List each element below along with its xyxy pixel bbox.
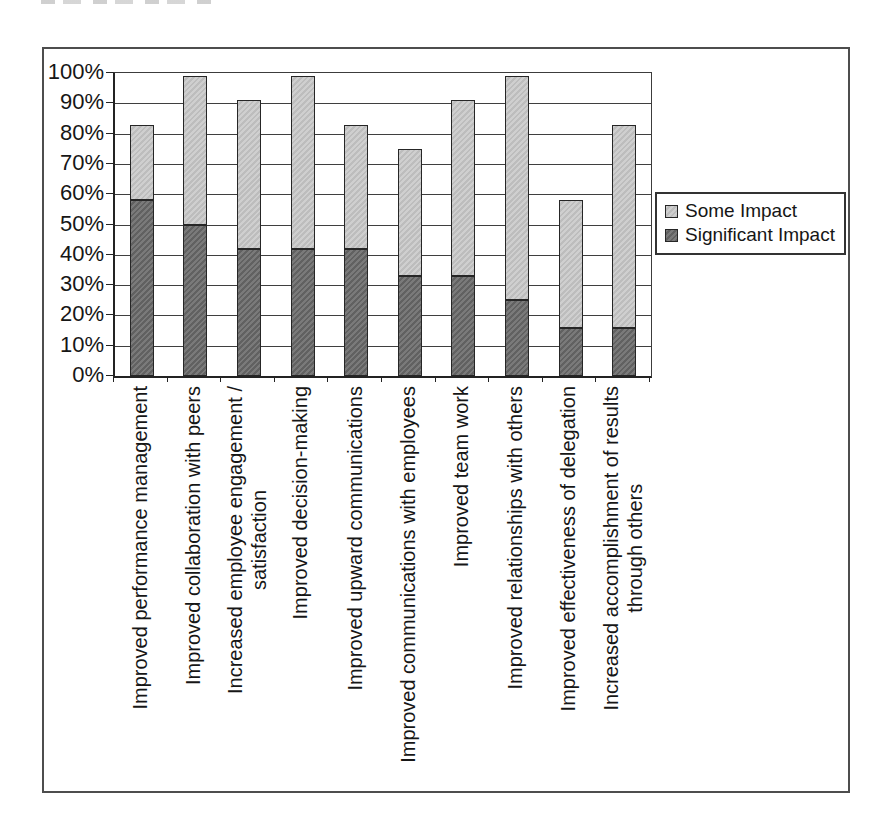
y-tick-mark: [106, 375, 113, 376]
bar-segment-significant-impact: [451, 276, 475, 376]
x-category-label: Increased accomplishment of resultsthrou…: [598, 386, 646, 711]
bar-segment-significant-impact: [398, 276, 422, 376]
y-tick-label: 60%: [32, 182, 104, 204]
x-tick-mark: [649, 377, 650, 382]
y-tick-label: 90%: [32, 91, 104, 113]
legend-label: Significant Impact: [685, 224, 835, 246]
x-category-label: Improved decision-making: [289, 386, 313, 619]
x-tick-mark: [381, 377, 382, 382]
bar-segment-some-impact: [559, 200, 583, 327]
x-tick-mark: [595, 377, 596, 382]
x-tick-mark: [327, 377, 328, 382]
bar-segment-significant-impact: [237, 249, 261, 376]
significant-impact-swatch-icon: [665, 229, 678, 242]
y-tick-mark: [106, 345, 113, 346]
bar-segment-some-impact: [130, 125, 154, 201]
y-tick-label: 70%: [32, 152, 104, 174]
bar-segment-significant-impact: [291, 249, 315, 376]
legend-item-significant-impact: Significant Impact: [665, 223, 837, 247]
x-category-label: Improved effectiveness of delegation: [557, 386, 581, 711]
legend-item-some-impact: Some Impact: [665, 199, 837, 223]
bar-segment-significant-impact: [344, 249, 368, 376]
y-tick-mark: [106, 193, 113, 194]
y-tick-mark: [106, 72, 113, 73]
x-tick-mark: [167, 377, 168, 382]
bar-segment-some-impact: [237, 100, 261, 249]
x-tick-mark: [113, 377, 114, 382]
x-category-label: Improved performance management: [128, 386, 152, 710]
x-category-label: Improved communications with employees: [396, 386, 420, 763]
bar-segment-some-impact: [612, 125, 636, 328]
bar-segment-some-impact: [505, 76, 529, 300]
bar-segment-some-impact: [183, 76, 207, 225]
bar-segment-significant-impact: [505, 300, 529, 376]
y-tick-mark: [106, 102, 113, 103]
y-tick-mark: [106, 163, 113, 164]
cropped-text-fragment: [41, 0, 211, 4]
x-category-label: Improved collaboration with peers: [181, 386, 205, 685]
x-category-label: Improved relationships with others: [503, 386, 527, 689]
y-tick-label: 30%: [32, 273, 104, 295]
y-tick-label: 100%: [32, 61, 104, 83]
bar-segment-some-impact: [344, 125, 368, 249]
bar-segment-some-impact: [291, 76, 315, 249]
y-tick-label: 20%: [32, 303, 104, 325]
bar-segment-some-impact: [398, 149, 422, 276]
x-tick-mark: [220, 377, 221, 382]
y-tick-mark: [106, 254, 113, 255]
legend-label: Some Impact: [685, 200, 797, 222]
x-tick-mark: [274, 377, 275, 382]
y-tick-label: 40%: [32, 243, 104, 265]
x-tick-mark: [542, 377, 543, 382]
x-tick-mark: [488, 377, 489, 382]
y-tick-label: 50%: [32, 213, 104, 235]
y-tick-mark: [106, 133, 113, 134]
bar-segment-significant-impact: [183, 225, 207, 377]
y-tick-label: 0%: [32, 364, 104, 386]
y-tick-label: 80%: [32, 122, 104, 144]
y-tick-mark: [106, 314, 113, 315]
bar-segment-significant-impact: [130, 200, 154, 376]
bar-segment-significant-impact: [612, 328, 636, 377]
y-tick-label: 10%: [32, 334, 104, 356]
x-category-label: Improved team work: [449, 386, 473, 567]
x-tick-mark: [435, 377, 436, 382]
bar-segment-significant-impact: [559, 328, 583, 377]
x-category-label: Increased employee engagement /satisfact…: [223, 386, 271, 694]
plot-area: [113, 72, 652, 378]
y-tick-mark: [106, 284, 113, 285]
some-impact-swatch-icon: [665, 205, 678, 218]
x-category-label: Improved upward communications: [342, 386, 366, 691]
y-tick-mark: [106, 224, 113, 225]
legend: Some Impact Significant Impact: [655, 192, 846, 255]
bar-segment-some-impact: [451, 100, 475, 276]
